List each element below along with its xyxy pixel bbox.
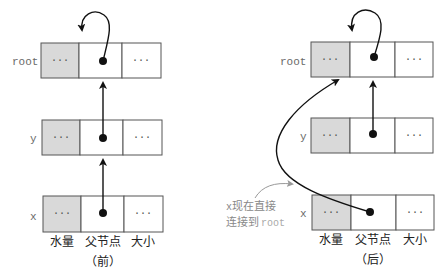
before-root-node: root ··· ··· xyxy=(12,12,161,78)
after-diagram: root ··· ··· y ··· ··· x ··· xyxy=(226,10,434,267)
after-x-node: x ··· ··· xyxy=(277,80,434,230)
column-label-parent: 父节点 xyxy=(85,235,121,249)
after-y-node: y ··· ··· xyxy=(300,82,433,153)
node-label-y: y xyxy=(300,131,307,143)
caption-after: （后） xyxy=(355,253,391,267)
node-label-x: x xyxy=(300,208,307,220)
node-label-x: x xyxy=(30,211,37,223)
before-y-node: y ··· ··· xyxy=(30,83,162,155)
size-placeholder: ··· xyxy=(406,207,424,218)
weight-placeholder: ··· xyxy=(51,55,69,66)
weight-placeholder: ··· xyxy=(52,132,70,143)
column-label-size: 大小 xyxy=(131,235,155,249)
weight-placeholder: ··· xyxy=(322,207,340,218)
path-compression-annotation: x现在直接 连接到root xyxy=(226,184,292,229)
before-diagram: root ··· ··· y ··· ··· x ··· xyxy=(12,12,163,269)
column-label-size: 大小 xyxy=(403,233,427,247)
size-placeholder: ··· xyxy=(134,208,152,219)
caption-before: （前） xyxy=(85,254,121,269)
before-x-node: x ··· ··· xyxy=(30,160,163,232)
annotation-line-2: 连接到root xyxy=(226,216,285,229)
annotation-line-1: x现在直接 xyxy=(226,199,276,213)
annotation-pointer-arrow xyxy=(255,184,292,198)
size-placeholder: ··· xyxy=(405,54,423,65)
size-placeholder: ··· xyxy=(405,130,423,141)
size-placeholder: ··· xyxy=(133,132,151,143)
column-label-weight: 水量 xyxy=(319,233,343,247)
node-label-y: y xyxy=(30,133,37,145)
weight-placeholder: ··· xyxy=(321,130,339,141)
column-label-parent: 父节点 xyxy=(355,233,391,247)
union-find-diagram: root ··· ··· y ··· ··· x ··· xyxy=(0,0,444,277)
weight-placeholder: ··· xyxy=(321,54,339,65)
node-label-root: root xyxy=(280,56,306,68)
column-label-weight: 水量 xyxy=(50,235,74,249)
weight-placeholder: ··· xyxy=(53,208,71,219)
size-placeholder: ··· xyxy=(132,55,150,66)
node-label-root: root xyxy=(12,56,38,68)
after-root-node: root ··· ··· xyxy=(280,10,433,77)
